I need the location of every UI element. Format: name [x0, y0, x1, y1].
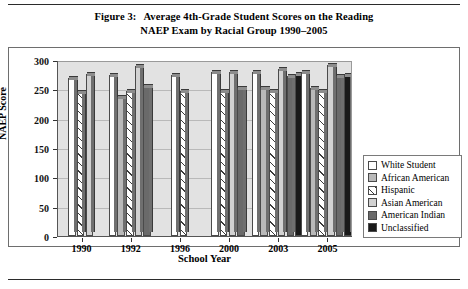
bar-top-face	[144, 84, 153, 88]
y-tick-label: 50	[9, 202, 49, 213]
plot-area	[57, 61, 352, 237]
y-tick-label: 200	[9, 114, 49, 125]
bar	[86, 74, 94, 237]
bar-side-face	[149, 84, 153, 232]
top-rule	[8, 4, 460, 5]
bar-top-face	[328, 63, 337, 67]
bar-top-face	[230, 70, 239, 74]
legend-swatch-icon	[368, 223, 377, 232]
bar	[109, 75, 117, 236]
x-tick-mark	[180, 238, 181, 242]
y-tick-label: 150	[9, 144, 49, 155]
legend-swatch-icon	[368, 173, 377, 182]
figure-label: Figure 3:	[95, 11, 137, 22]
bar	[171, 75, 179, 236]
bar-top-face	[110, 73, 119, 77]
legend-swatch-icon	[368, 211, 377, 220]
bar-top-face	[69, 76, 78, 80]
bar-top-face	[212, 70, 221, 74]
bar-side-face	[243, 86, 247, 232]
x-axis-label: School Year	[57, 253, 352, 264]
bar-top-face	[302, 70, 311, 74]
bar	[278, 69, 286, 236]
y-tick-label: 250	[9, 85, 49, 96]
legend-item-label: Hispanic	[381, 185, 415, 195]
bar	[77, 92, 85, 236]
bar-top-face	[172, 73, 181, 77]
legend-item-label: Unclassified	[381, 223, 429, 233]
figure-title-line2: NAEP Exam by Racial Group 1990–2005	[140, 25, 327, 36]
legend-item-label: White Student	[381, 160, 436, 170]
bar	[252, 72, 260, 236]
bar	[310, 88, 318, 236]
bar	[135, 66, 143, 236]
legend-item-unclass[interactable]: Unclassified	[368, 222, 458, 235]
y-tick-mark	[53, 237, 57, 238]
bar	[269, 91, 277, 236]
y-axis-label: NAEP Score	[0, 87, 8, 140]
legend-swatch-icon	[368, 186, 377, 195]
legend-swatch-icon	[368, 161, 377, 170]
bar	[229, 72, 237, 236]
bar	[237, 88, 245, 236]
y-tick-label: 100	[9, 173, 49, 184]
x-tick-mark	[229, 238, 230, 242]
bar	[327, 65, 335, 236]
y-tick-label: 300	[9, 56, 49, 67]
x-tick-mark	[327, 238, 328, 242]
legend-item-label: African American	[381, 173, 449, 183]
bar-side-face	[185, 89, 189, 232]
bar	[126, 91, 134, 236]
bar	[260, 88, 268, 236]
bar-side-face	[350, 73, 352, 232]
legend-item-amind[interactable]: American Indian	[368, 209, 458, 222]
bar	[143, 86, 151, 236]
bar-top-face	[311, 86, 320, 90]
y-tick-label: 0	[9, 232, 49, 243]
bar	[287, 76, 295, 236]
bottom-rule	[8, 279, 460, 280]
legend-swatch-icon	[368, 198, 377, 207]
figure-page: Figure 3:Average 4th-Grade Student Score…	[0, 0, 468, 289]
bar-side-face	[91, 72, 95, 233]
legend-item-white[interactable]: White Student	[368, 159, 458, 172]
bar-top-face	[253, 70, 262, 74]
bar	[301, 72, 309, 236]
bar-top-face	[181, 89, 190, 93]
plot-inner	[58, 61, 352, 236]
figure-caption: Figure 3:Average 4th-Grade Student Score…	[34, 10, 434, 38]
legend-item-label: American Indian	[381, 210, 445, 220]
bar-top-face	[345, 73, 352, 77]
bar-top-face	[87, 72, 96, 76]
bar	[180, 91, 188, 236]
bar	[344, 75, 352, 236]
bar	[318, 91, 326, 236]
bar-top-face	[279, 67, 288, 71]
legend-item-hispanic[interactable]: Hispanic	[368, 184, 458, 197]
bar	[68, 78, 76, 236]
bar	[336, 76, 344, 236]
bar	[211, 72, 219, 236]
bar	[220, 91, 228, 236]
x-tick-mark	[131, 238, 132, 242]
figure-title-line1: Average 4th-Grade Student Scores on the …	[143, 11, 373, 22]
bar-top-face	[238, 86, 247, 90]
legend-item-african[interactable]: African American	[368, 172, 458, 185]
legend: White StudentAfrican AmericanHispanicAsi…	[363, 155, 462, 238]
x-tick-mark	[82, 238, 83, 242]
chart-container: NAEP Score 050100150200250300 1990199219…	[8, 47, 460, 247]
bar-top-face	[136, 64, 145, 68]
legend-item-label: Asian American	[381, 198, 442, 208]
bar	[117, 97, 125, 236]
x-tick-mark	[278, 238, 279, 242]
legend-item-asian[interactable]: Asian American	[368, 197, 458, 210]
